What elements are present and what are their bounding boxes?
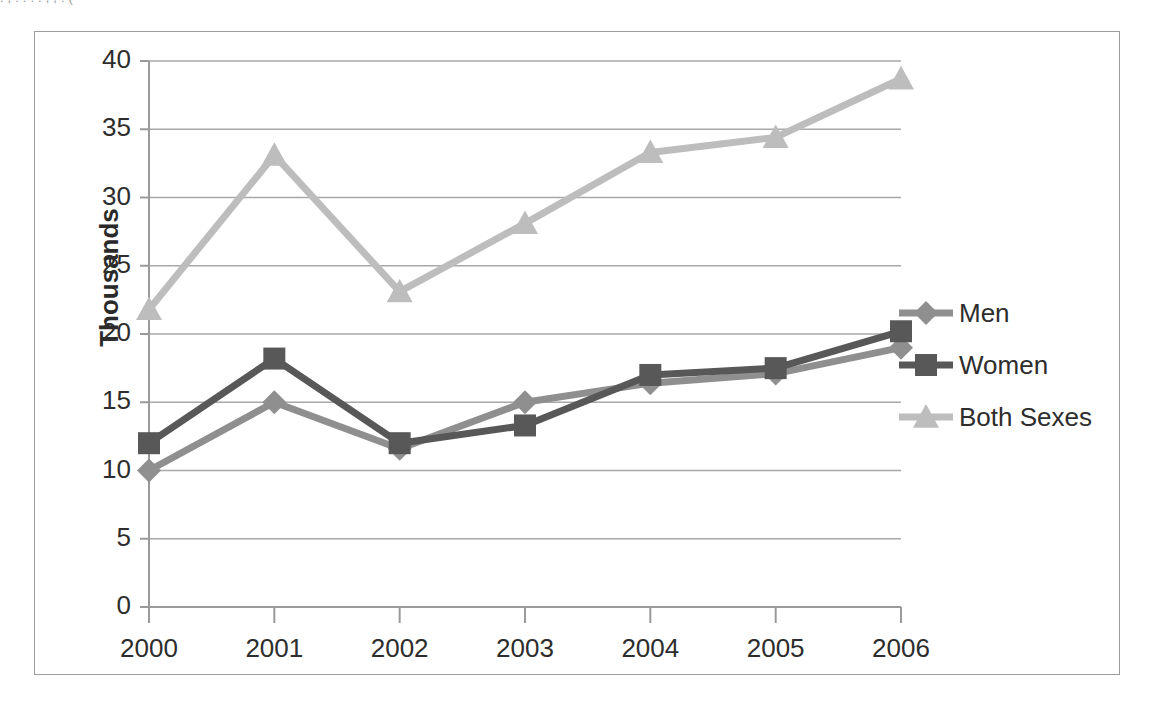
chart-frame: Thousands 0510152025303540 2000200120022…	[34, 31, 1120, 675]
series-women	[138, 320, 912, 454]
series-both-sexes	[136, 66, 914, 320]
legend-item-both-sexes[interactable]: Both Sexes	[897, 391, 1112, 443]
series-men	[137, 336, 913, 483]
legend-swatch-graphic	[897, 301, 955, 325]
data-point	[513, 390, 537, 414]
data-point	[765, 357, 787, 379]
data-point	[138, 432, 160, 454]
data-point	[514, 414, 536, 436]
legend-label: Women	[959, 350, 1048, 381]
legend-item-women[interactable]: Women	[897, 339, 1112, 391]
data-point	[263, 348, 285, 370]
legend-swatch-graphic	[897, 405, 955, 429]
legend-swatch-graphic	[897, 353, 955, 377]
data-point	[261, 142, 287, 166]
clipped-caption-strip: . , . . . . , , . (	[0, 0, 1156, 12]
clipped-caption-text: . , . . . . , , . (	[0, 0, 1156, 4]
legend-item-men[interactable]: Men	[897, 287, 1112, 339]
legend-marker	[915, 354, 937, 376]
chart-legend: MenWomenBoth Sexes	[897, 287, 1112, 443]
data-point	[389, 432, 411, 454]
legend-label: Both Sexes	[959, 402, 1092, 433]
gridlines	[149, 61, 901, 607]
data-point	[888, 66, 914, 90]
series-line	[149, 79, 901, 310]
legend-marker-diamond-icon	[897, 301, 955, 325]
data-point	[639, 364, 661, 386]
legend-label: Men	[959, 298, 1010, 329]
legend-marker	[914, 301, 938, 325]
legend-marker-triangle-icon	[897, 405, 955, 429]
legend-marker-square-icon	[897, 353, 955, 377]
